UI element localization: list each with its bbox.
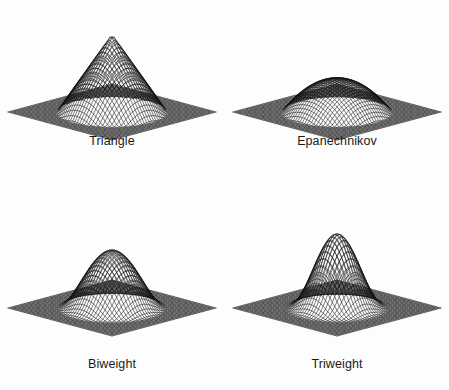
surface-mesh-epanechnikov bbox=[225, 0, 449, 150]
panel-caption-triangle: Triangle bbox=[0, 134, 224, 148]
surface-mesh-triweight bbox=[225, 196, 449, 346]
panel-biweight: Biweight bbox=[0, 196, 224, 390]
panel-triweight: Triweight bbox=[225, 196, 449, 390]
surface-plot-biweight bbox=[0, 196, 224, 346]
panel-caption-triweight: Triweight bbox=[225, 357, 449, 371]
panel-triangle: Triangle bbox=[0, 0, 224, 195]
surface-plot-epanechnikov bbox=[225, 0, 449, 150]
panel-epanechnikov: Epanechnikov bbox=[225, 0, 449, 195]
panel-caption-biweight: Biweight bbox=[0, 357, 224, 371]
surface-mesh-triangle bbox=[0, 0, 224, 150]
surface-plot-triangle bbox=[0, 0, 224, 150]
kernel-surface-figure: Triangle Epanechnikov Biweight Triweight bbox=[0, 0, 449, 390]
surface-mesh-biweight bbox=[0, 196, 224, 346]
panel-caption-epanechnikov: Epanechnikov bbox=[225, 134, 449, 148]
surface-plot-triweight bbox=[225, 196, 449, 346]
